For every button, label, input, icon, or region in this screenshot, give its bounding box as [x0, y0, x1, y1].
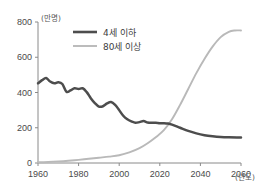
- y-tick-label: 400: [17, 88, 32, 98]
- legend-label-0: 4세 이하: [103, 28, 137, 38]
- y-tick-label: 200: [17, 123, 32, 133]
- x-tick-label: 2040: [190, 169, 210, 179]
- y-tick-label: 0: [27, 158, 32, 168]
- y-tick-label: 800: [17, 17, 32, 27]
- y-tick-label: 600: [17, 52, 32, 62]
- x-tick-label: 2020: [150, 169, 170, 179]
- chart-svg: 0200400600800 196019802000202020402060 (…: [0, 0, 267, 188]
- legend-label-1: 80세 이상: [103, 42, 141, 52]
- y-axis-unit-label: (만명): [41, 13, 61, 23]
- x-tick-label: 1980: [69, 169, 89, 179]
- y-axis-ticks: 0200400600800: [17, 17, 38, 168]
- chart-legend: 4세 이하 80세 이상: [73, 28, 141, 52]
- x-tick-label: 1960: [28, 169, 48, 179]
- x-tick-label: 2000: [109, 169, 129, 179]
- x-axis-unit-label: (년도): [235, 172, 255, 182]
- population-line-chart: 0200400600800 196019802000202020402060 (…: [0, 0, 267, 188]
- series-line-4se-ihaha: [38, 78, 241, 137]
- x-axis-ticks: 196019802000202020402060: [28, 163, 251, 179]
